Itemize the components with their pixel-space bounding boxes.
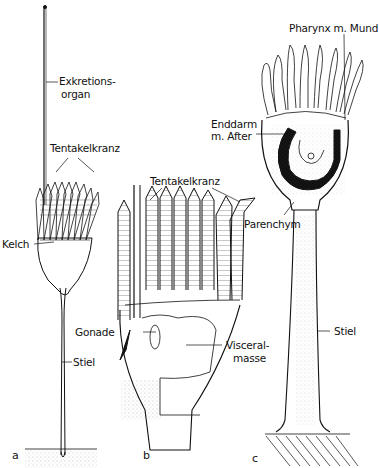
label-tentakelkranz-b: Tentakelkranz [150, 175, 220, 187]
panel-letter-a: a [12, 449, 19, 462]
panel-letter-c: c [252, 452, 258, 465]
label-visceralmasse-line2: masse [233, 352, 266, 364]
label-kelch: Kelch [2, 238, 29, 250]
label-pharynx-mund: Pharynx m. Mund [289, 22, 378, 34]
label-parenchym: Parenchym [244, 218, 301, 230]
label-exkretionsorgan-line1: Exkretions- [59, 75, 116, 87]
label-gonade: Gonade [75, 326, 115, 338]
label-exkretionsorgan-line2: organ [61, 88, 90, 100]
label-enddarm-line2: m. After [211, 130, 252, 142]
panel-a-drawing [25, 6, 99, 458]
label-tentakelkranz-a: Tentakelkranz [50, 142, 120, 154]
label-enddarm-line1: Enddarm [211, 118, 257, 130]
label-visceralmasse-line1: Visceral- [226, 339, 269, 351]
label-stiel-a: Stiel [73, 356, 95, 368]
panel-letter-b: b [143, 449, 150, 462]
label-stiel-c: Stiel [334, 325, 356, 337]
figure-illustration [0, 0, 379, 468]
